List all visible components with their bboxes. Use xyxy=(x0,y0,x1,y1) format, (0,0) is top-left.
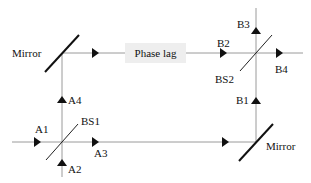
interferometer-diagram: Phase lag Mirror Mirror BS1 BS2 A1 A2 A3… xyxy=(0,0,311,183)
arrow-right-icon xyxy=(34,137,41,147)
port-a2-label: A2 xyxy=(68,163,81,175)
arrow-right-icon xyxy=(92,137,99,147)
arrow-right-icon xyxy=(220,48,227,58)
arrow-up-icon xyxy=(57,159,67,166)
port-b4-label: B4 xyxy=(275,63,288,75)
mirror-top-left-label: Mirror xyxy=(12,47,42,59)
port-a4-label: A4 xyxy=(68,94,82,106)
mirror-bottom-right-label: Mirror xyxy=(266,140,296,152)
port-a3-label: A3 xyxy=(94,147,108,159)
arrow-up-icon xyxy=(251,27,261,34)
bs1-label: BS1 xyxy=(81,115,100,127)
phase-lag-element: Phase lag xyxy=(125,43,186,63)
bs2-label: BS2 xyxy=(215,73,234,85)
arrow-up-icon xyxy=(57,96,67,103)
port-b3-label: B3 xyxy=(237,18,250,30)
port-b2-label: B2 xyxy=(217,37,230,49)
phase-lag-label: Phase lag xyxy=(135,47,177,59)
port-a1-label: A1 xyxy=(35,123,48,135)
arrow-right-icon xyxy=(222,137,229,147)
port-b1-label: B1 xyxy=(236,94,249,106)
arrow-up-icon xyxy=(251,97,261,104)
arrow-right-icon xyxy=(276,48,283,58)
arrow-right-icon xyxy=(92,48,99,58)
